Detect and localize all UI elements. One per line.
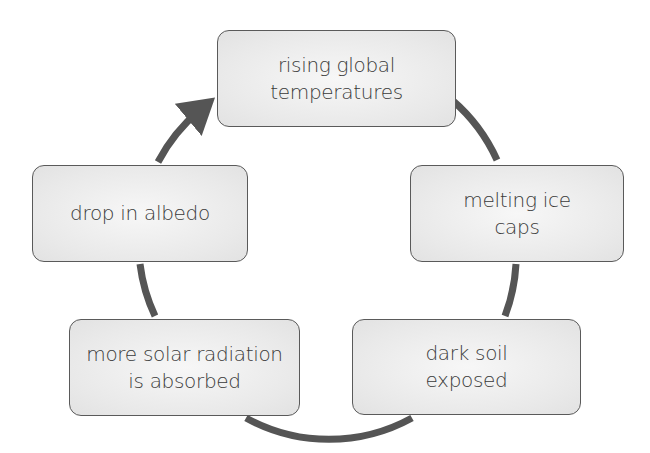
arc-right-to-bottom-right bbox=[505, 264, 516, 316]
node-label: melting ice caps bbox=[463, 187, 570, 241]
node-label: dark soil exposed bbox=[425, 340, 507, 394]
node-more-solar-radiation-absorbed: more solar radiation is absorbed bbox=[69, 319, 300, 416]
node-label: more solar radiation is absorbed bbox=[86, 341, 283, 395]
node-melting-ice-caps: melting ice caps bbox=[410, 165, 624, 262]
arc-bottom-right-to-bottom-left bbox=[246, 418, 412, 439]
node-label: drop in albedo bbox=[70, 200, 210, 227]
node-label: rising global temperatures bbox=[270, 52, 403, 106]
node-drop-in-albedo: drop in albedo bbox=[32, 165, 248, 262]
arc-bottom-left-to-left bbox=[140, 264, 155, 316]
arc-left-to-top-arrow bbox=[158, 110, 200, 162]
node-rising-global-temperatures: rising global temperatures bbox=[217, 30, 456, 127]
arc-top-to-right bbox=[452, 100, 497, 160]
node-dark-soil-exposed: dark soil exposed bbox=[352, 319, 581, 415]
